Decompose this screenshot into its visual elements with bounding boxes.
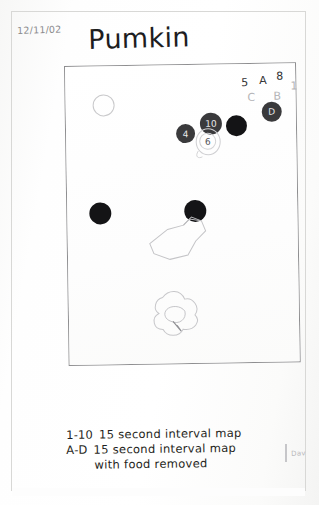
caption-line-3: with food removed — [66, 455, 281, 473]
caption-line-1-text: 15 second interval map — [99, 426, 242, 442]
scanned-notebook-page: 12/11/02 Pumkin 5A8CB1 D4106 — [0, 0, 319, 505]
corner-annotation-5: 5 — [241, 76, 248, 89]
arena-boundary-rectangle: 5A8CB1 D4106 — [64, 62, 301, 366]
date-annotation: 12/11/02 — [17, 23, 62, 36]
corner-annotation-1: 1 — [290, 79, 297, 92]
corner-annotation-c: C — [247, 91, 255, 104]
corner-annotation-8: 8 — [276, 70, 283, 83]
initials-mark: Dav — [291, 449, 306, 458]
corner-annotation-a: A — [259, 74, 267, 87]
mark-6-faint-label: 6 — [200, 134, 215, 149]
caption-line-2-range: A-D — [66, 443, 87, 457]
page-border-gap — [12, 488, 305, 496]
caption-block: 1-1015 second interval map A-D15 second … — [66, 425, 282, 473]
caption-line-2-text: 15 second interval map — [93, 441, 236, 457]
caption-line-1-range: 1-10 — [66, 428, 93, 442]
page-title: Pumkin — [88, 23, 190, 53]
scan-edge-streak — [285, 444, 287, 462]
corner-annotation-b: B — [273, 90, 281, 103]
